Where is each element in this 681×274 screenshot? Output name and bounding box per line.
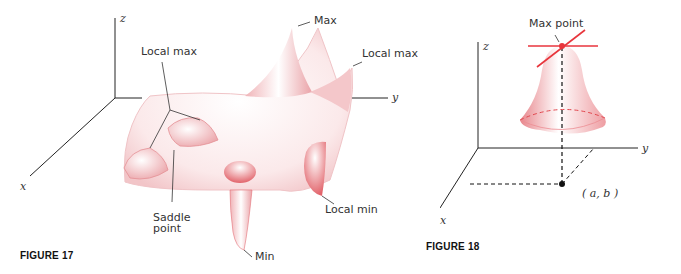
max-point-leader — [555, 35, 559, 42]
z-axis-label: z — [483, 40, 489, 53]
label-local-min: Local min — [325, 204, 378, 216]
point-ab-marker — [559, 181, 565, 187]
label-local-max-right: Local max — [362, 48, 418, 60]
y-axis-label: y — [642, 142, 648, 155]
label-max-point: Max point — [529, 18, 583, 30]
y-projection-line — [562, 148, 594, 184]
label-point-ab: ( a, b ) — [582, 187, 618, 200]
bell-surface-max-point — [440, 0, 681, 274]
min-trough — [230, 190, 252, 250]
center-dip — [224, 161, 256, 183]
surface-plot-extrema — [0, 0, 440, 274]
figure-18: z y x Max point ( a, b ) FIGURE 18 — [440, 0, 681, 274]
label-max: Max — [314, 15, 337, 27]
label-saddle-line2: point — [153, 223, 181, 235]
x-axis-label: x — [440, 214, 446, 227]
bell-surface — [520, 46, 606, 134]
label-min: Min — [255, 251, 275, 263]
z-axis-label: z — [120, 12, 126, 25]
label-local-max-left: Local max — [141, 46, 197, 58]
y-axis-label: y — [392, 91, 398, 104]
figure-17: z y x Max Local max Local max Saddle poi… — [0, 0, 440, 274]
figure-17-caption: FIGURE 17 — [20, 250, 73, 261]
figure-18-caption: FIGURE 18 — [426, 241, 479, 252]
max-point-marker — [559, 43, 565, 49]
x-axis-label: x — [20, 180, 26, 193]
